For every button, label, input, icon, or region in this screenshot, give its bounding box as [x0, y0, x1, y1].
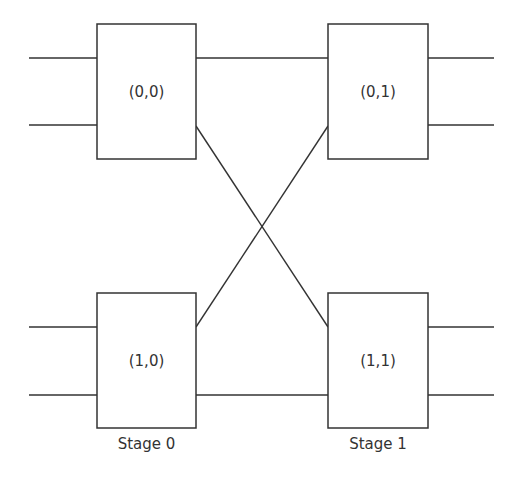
stage-label-0: Stage 0: [118, 435, 176, 453]
stage-label-1: Stage 1: [349, 435, 407, 453]
switch-1-1: (1,1): [328, 293, 428, 428]
switch-0-1: (0,1): [328, 24, 428, 159]
switch-1-0: (1,0): [97, 293, 196, 428]
switch-label: (0,0): [129, 83, 165, 101]
interstage-wires: [196, 58, 328, 395]
switch-label: (1,0): [129, 352, 165, 370]
switch-0-0: (0,0): [97, 24, 196, 159]
output-wires: [428, 58, 494, 395]
input-wires: [29, 58, 97, 395]
switch-label: (1,1): [360, 352, 396, 370]
switch-label: (0,1): [360, 83, 396, 101]
switching-network-diagram: (0,0) (0,1) (1,0) (1,1) Stage 0 Stage 1: [0, 0, 517, 479]
